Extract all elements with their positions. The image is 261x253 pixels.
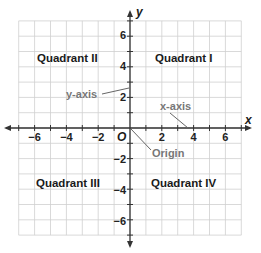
x-tick-label: 4 xyxy=(191,131,198,143)
x-tick-label: −6 xyxy=(28,131,41,143)
coordinate-plane: −6 −4 −2 2 4 6 6 4 2 −2 −4 −6 y x O Quad… xyxy=(0,0,261,253)
y-axis-up-arrow-icon xyxy=(127,10,133,17)
y-axis-label: y xyxy=(135,5,144,19)
y-tick-label: 2 xyxy=(120,91,126,103)
y-axis-down-arrow-icon xyxy=(127,241,133,248)
x-axis-callout-label: x-axis xyxy=(160,100,191,112)
x-tick-labels: −6 −4 −2 2 4 6 xyxy=(28,131,228,143)
y-axis-callout-label: y-axis xyxy=(66,88,97,100)
quadrant-i-label: Quadrant I xyxy=(155,52,213,64)
y-tick-label: −6 xyxy=(113,215,126,227)
y-tick-label: 6 xyxy=(120,29,126,41)
x-axis xyxy=(4,125,252,131)
x-axis-left-arrow-icon xyxy=(4,125,11,131)
x-axis-callout: x-axis xyxy=(160,100,191,128)
y-axis xyxy=(127,10,133,248)
x-tick-label: −4 xyxy=(60,131,73,143)
x-tick-label: 6 xyxy=(222,131,228,143)
x-tick-label: −2 xyxy=(92,131,105,143)
quadrant-ii-label: Quadrant II xyxy=(37,52,98,64)
y-tick-label: 4 xyxy=(120,60,127,72)
origin-callout-label: Origin xyxy=(152,147,185,159)
y-tick-label: −2 xyxy=(113,153,126,165)
x-axis-label: x xyxy=(244,113,253,127)
y-tick-label: −4 xyxy=(113,184,126,196)
x-tick-label: 2 xyxy=(159,131,165,143)
origin-label: O xyxy=(117,130,127,144)
quadrant-iv-label: Quadrant IV xyxy=(151,177,217,189)
quadrant-iii-label: Quadrant III xyxy=(36,177,100,189)
